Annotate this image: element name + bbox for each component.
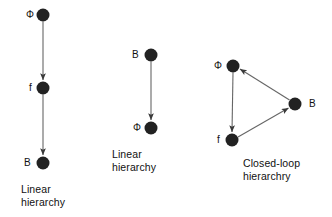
caption-closed-loop-hierarchy-right: Closed-loop hierarchry [243,157,300,183]
caption-linear-hierarchy-middle: Linear hierarchy [112,148,156,174]
edge-phi-to-f [232,73,233,133]
node-label-phi-left: Φ [26,10,34,20]
node-phi[interactable] [227,60,240,73]
caption-linear-hierarchy-left: Linear hierarchy [21,183,65,209]
left-panel-graph [37,9,50,170]
edge-f-to-b [238,108,289,137]
node-b[interactable] [37,157,50,170]
node-b[interactable] [145,49,158,62]
node-label-b-left: B [24,158,31,168]
node-label-b-middle: B [132,50,139,60]
node-label-phi-middle: Φ [133,123,141,133]
node-label-f-left: f [29,83,32,93]
node-label-b-right: B [309,99,316,109]
node-f[interactable] [226,134,239,147]
node-f[interactable] [37,82,50,95]
node-label-f-right: f [217,135,220,145]
figure-canvas: Φ f B Linear hierarchy B Φ Linear hierar… [0,0,332,217]
node-label-phi-right: Φ [214,61,222,71]
edge-b-to-phi [240,69,290,100]
middle-panel-graph [145,49,158,135]
right-panel-graph [226,60,302,147]
node-b[interactable] [289,98,302,111]
node-phi[interactable] [37,9,50,22]
node-phi[interactable] [145,122,158,135]
